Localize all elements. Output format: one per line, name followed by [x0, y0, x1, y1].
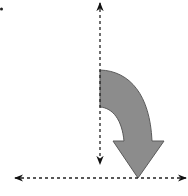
diagram-canvas	[0, 0, 188, 196]
curved-arrow-icon	[100, 70, 164, 178]
corner-dot	[0, 8, 3, 11]
